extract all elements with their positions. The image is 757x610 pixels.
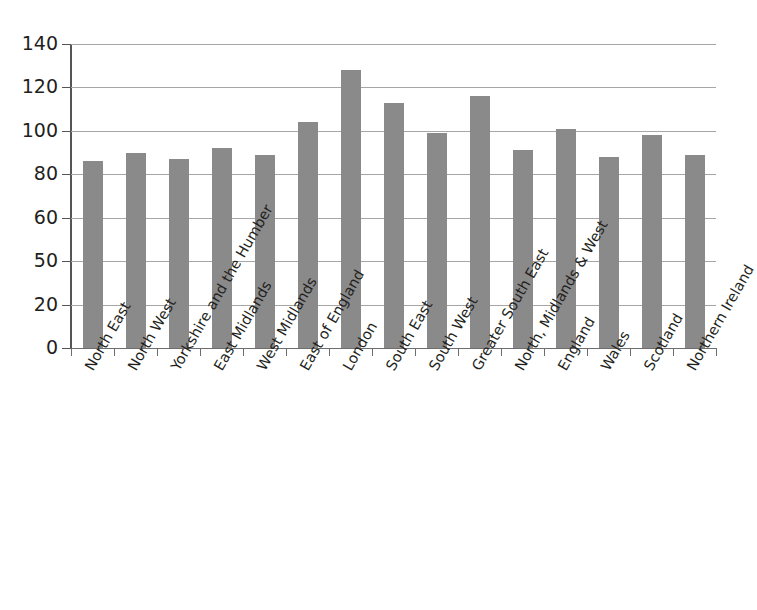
y-axis-tick-mark (62, 218, 71, 219)
chart-title (0, 0, 740, 14)
y-axis-tick-label: 100 (6, 121, 58, 140)
x-axis-tick-mark (372, 348, 373, 356)
y-axis-tick-mark (62, 305, 71, 306)
x-axis-tick-mark (544, 348, 545, 356)
y-axis-tick-label: 60 (6, 208, 58, 227)
y-axis-tick-label: 80 (6, 164, 58, 183)
y-axis-tick-label: 20 (6, 295, 58, 314)
x-axis-tick-mark (716, 348, 717, 356)
y-axis-tick-label: 120 (6, 77, 58, 96)
x-axis-tick-mark (415, 348, 416, 356)
x-axis-tick-mark (329, 348, 330, 356)
y-axis-tick-mark (62, 174, 71, 175)
y-axis-tick-label: 0 (6, 338, 58, 357)
y-axis-tick-mark (62, 44, 71, 45)
y-axis-tick-mark (62, 261, 71, 262)
x-axis-tick-mark (501, 348, 502, 356)
x-axis-tick-mark (71, 348, 72, 356)
x-axis-tick-mark (157, 348, 158, 356)
y-axis-tick-mark (62, 131, 71, 132)
y-axis-tick-label: 50 (6, 251, 58, 270)
x-axis-tick-mark (587, 348, 588, 356)
bar[interactable] (513, 150, 533, 348)
bar[interactable] (255, 155, 275, 348)
bar[interactable] (384, 103, 404, 348)
y-axis-labels: 140120100806050200 (0, 0, 58, 610)
x-axis-tick-mark (114, 348, 115, 356)
x-axis-tick-mark (673, 348, 674, 356)
x-axis-tick-mark (286, 348, 287, 356)
bar[interactable] (126, 153, 146, 348)
y-axis-tick-mark (62, 87, 71, 88)
y-axis-tick-label: 140 (6, 34, 58, 53)
bar[interactable] (83, 161, 103, 348)
bar[interactable] (599, 157, 619, 348)
y-axis-tick-mark (62, 348, 71, 349)
x-axis-tick-mark (200, 348, 201, 356)
x-axis-tick-mark (243, 348, 244, 356)
x-axis-tick-mark (458, 348, 459, 356)
bar[interactable] (642, 135, 662, 348)
bar[interactable] (212, 148, 232, 348)
bar[interactable] (685, 155, 705, 348)
bar[interactable] (169, 159, 189, 348)
x-axis-tick-mark (630, 348, 631, 356)
